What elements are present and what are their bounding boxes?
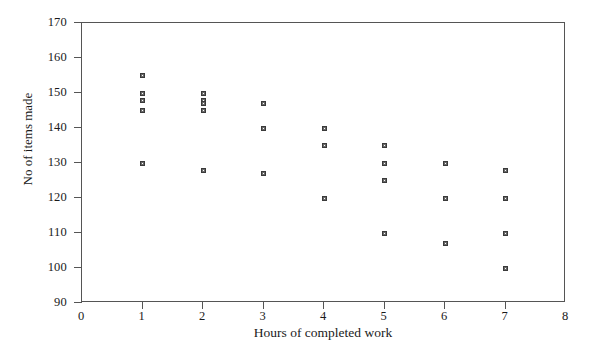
x-tick-3 — [263, 302, 264, 309]
data-point — [322, 143, 327, 148]
y-tick-label-170: 170 — [21, 16, 67, 28]
x-tick-7 — [505, 302, 506, 309]
data-point — [443, 196, 448, 201]
data-point — [503, 266, 508, 271]
y-tick-90 — [74, 302, 82, 303]
y-tick-label-150: 150 — [21, 86, 67, 98]
data-point — [322, 126, 327, 131]
data-point — [261, 171, 266, 176]
data-point — [261, 126, 266, 131]
y-tick-label-120: 120 — [21, 191, 67, 203]
plot-frame — [81, 22, 565, 302]
data-point — [261, 101, 266, 106]
x-tick-label-7: 7 — [490, 310, 520, 323]
data-point — [201, 168, 206, 173]
x-tick-label-1: 1 — [127, 310, 157, 323]
x-tick-1 — [142, 302, 143, 309]
plot-area — [82, 23, 564, 301]
data-point — [443, 161, 448, 166]
data-point — [201, 91, 206, 96]
data-point — [201, 108, 206, 113]
y-tick-label-160: 160 — [21, 51, 67, 63]
data-point — [503, 168, 508, 173]
data-point — [503, 196, 508, 201]
data-point — [382, 143, 387, 148]
data-point — [140, 73, 145, 78]
scatter-chart: No of items made 90100110120130140150160… — [0, 0, 595, 349]
data-point — [201, 101, 206, 106]
x-tick-5 — [384, 302, 385, 309]
x-tick-label-6: 6 — [429, 310, 459, 323]
y-tick-label-110: 110 — [21, 226, 67, 238]
data-point — [382, 161, 387, 166]
data-point — [140, 108, 145, 113]
x-tick-label-2: 2 — [187, 310, 217, 323]
data-point — [140, 161, 145, 166]
y-tick-label-140: 140 — [21, 121, 67, 133]
x-tick-6 — [444, 302, 445, 309]
y-tick-label-130: 130 — [21, 156, 67, 168]
y-tick-label-100: 100 — [21, 261, 67, 273]
x-axis-title: Hours of completed work — [81, 325, 565, 341]
data-point — [503, 231, 508, 236]
x-tick-label-5: 5 — [369, 310, 399, 323]
x-tick-label-8: 8 — [550, 310, 580, 323]
x-tick-label-0: 0 — [66, 310, 96, 323]
data-point — [443, 241, 448, 246]
data-point — [140, 98, 145, 103]
data-point — [382, 178, 387, 183]
x-tick-2 — [202, 302, 203, 309]
data-point — [140, 91, 145, 96]
y-tick-label-90: 90 — [21, 296, 67, 308]
data-point — [322, 196, 327, 201]
x-tick-label-4: 4 — [308, 310, 338, 323]
x-tick-4 — [323, 302, 324, 309]
x-tick-label-3: 3 — [248, 310, 278, 323]
data-point — [382, 231, 387, 236]
